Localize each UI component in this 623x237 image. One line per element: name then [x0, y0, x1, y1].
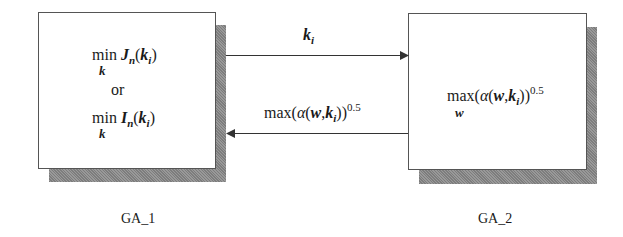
ga1-expr1-subscript: k [99, 63, 106, 79]
ga1-expr2-subscript: k [99, 126, 106, 142]
arrow-forward-head-icon [400, 51, 409, 60]
ga1-label: GA_1 [121, 211, 155, 227]
ga2-expr-max: max(α(w,ki))0.5 [447, 84, 544, 107]
arrow-backward-line [234, 133, 408, 134]
arrow-backward-label: max(α(w,ki))0.5 [264, 101, 361, 124]
ga1-or-label: or [111, 81, 124, 99]
arrow-forward-label: ki [303, 26, 314, 46]
ga2-expr-subscript: w [455, 105, 464, 121]
arrow-backward-head-icon [226, 129, 235, 138]
ga2-label: GA_2 [478, 211, 512, 227]
ga1-box [38, 12, 216, 169]
arrow-forward-line [226, 55, 402, 56]
